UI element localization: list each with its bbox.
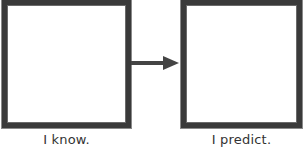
prediction-label: I predict. xyxy=(181,132,302,147)
known-label: I know. xyxy=(2,132,131,147)
arrow-icon xyxy=(0,0,308,150)
